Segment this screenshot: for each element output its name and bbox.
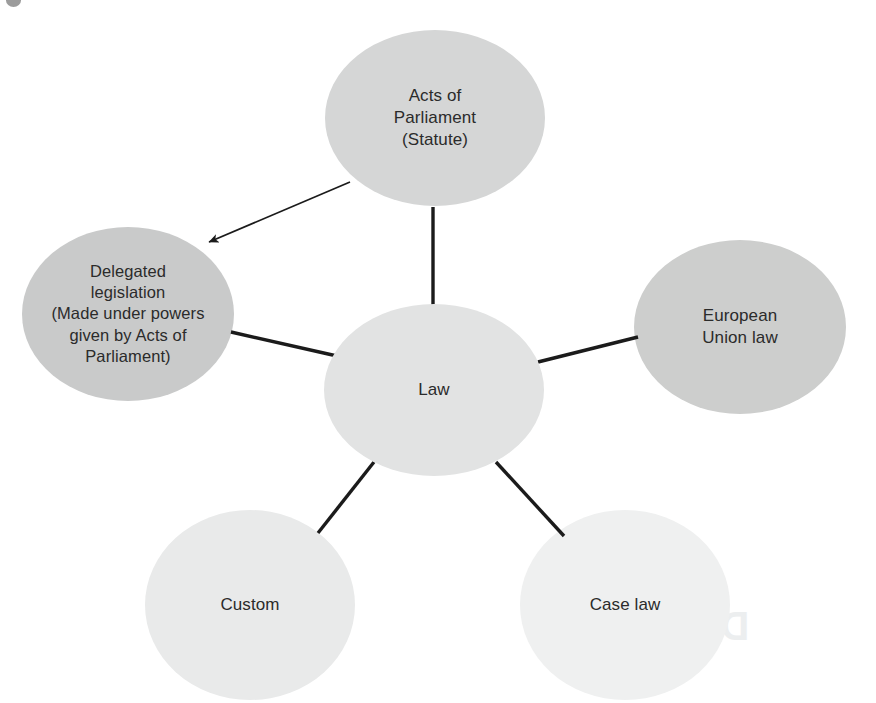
connector-arrow-acts-to-delegated [209,182,350,242]
node-ellipse-acts-of-parliament[interactable] [325,30,545,206]
node-ellipse-custom[interactable] [145,510,355,700]
connector-law-to-european-union-law [538,337,638,362]
node-ellipse-law[interactable] [324,304,544,476]
node-ellipse-case-law[interactable] [520,510,730,700]
diagram-shapes [0,0,876,703]
node-ellipse-delegated-legislation[interactable] [22,227,234,401]
connector-law-to-delegated-legislation [231,332,337,356]
connector-law-to-case-law [496,462,564,536]
diagram-canvas: Directives Acts of Parliament (Statute) … [0,0,876,703]
node-ellipse-european-union-law[interactable] [634,240,846,414]
connector-law-to-custom [318,462,374,533]
